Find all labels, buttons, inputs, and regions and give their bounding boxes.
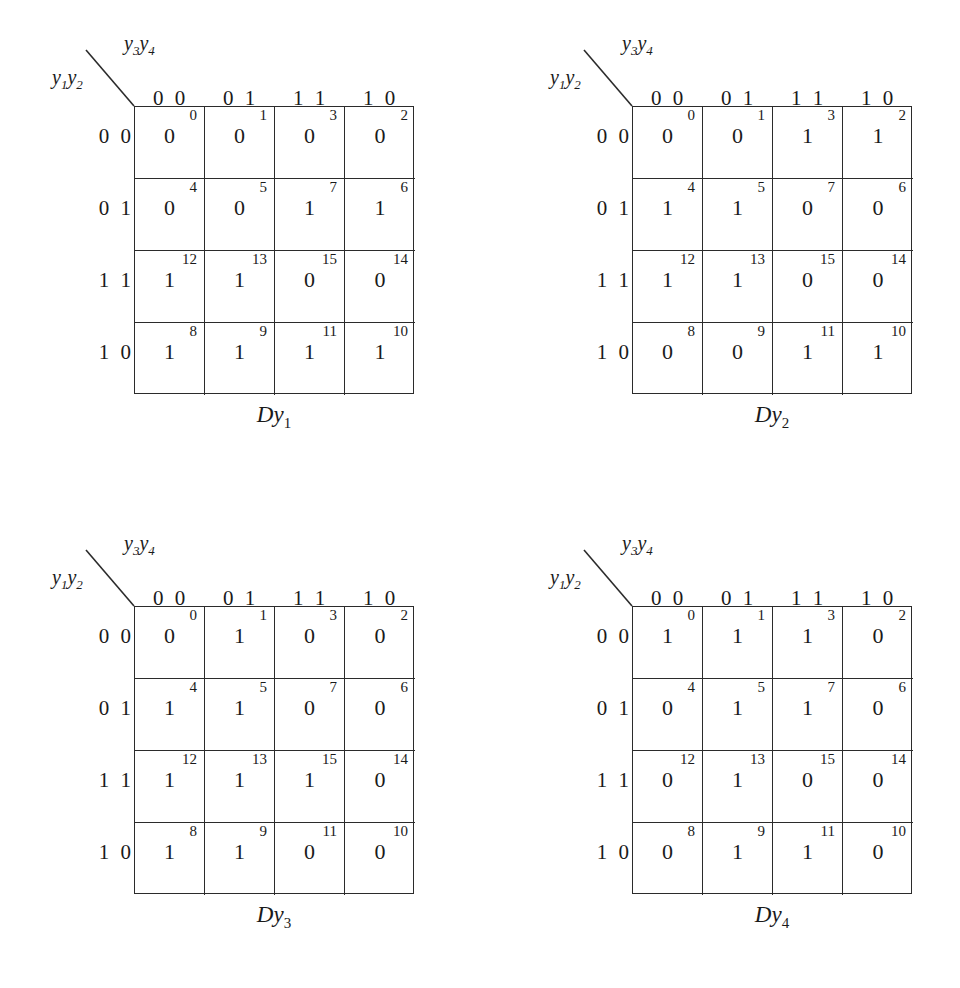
cell-index: 10: [891, 324, 906, 340]
cell-index: 13: [750, 752, 765, 768]
row-header: 0 0: [570, 124, 632, 149]
row-header: 0 0: [72, 124, 134, 149]
kmap-cell: 131: [205, 251, 275, 323]
cell-index: 15: [322, 752, 337, 768]
cell-value: 1: [773, 696, 842, 719]
column-variable-label: y3y4: [622, 32, 653, 59]
kmap-cell: 30: [275, 107, 345, 179]
cell-index: 14: [891, 752, 906, 768]
cell-value: 0: [843, 196, 913, 219]
cell-index: 11: [821, 324, 835, 340]
kmap-caption-subscript: 3: [284, 915, 292, 931]
kmap-grid: 00103020405071611211311501408191111101: [134, 106, 414, 394]
kmap-cell: 51: [703, 679, 773, 751]
cell-value: 1: [703, 196, 772, 219]
kmap-cell: 80: [633, 323, 703, 395]
kmap-caption-subscript: 1: [284, 415, 292, 431]
row-header: 1 1: [72, 768, 134, 793]
row-header: 0 0: [72, 624, 134, 649]
row-header: 1 0: [570, 340, 632, 365]
cell-index: 1: [260, 608, 268, 624]
kmap-grid: 01113120405171601201311501408091111100: [632, 606, 912, 894]
kmap-cell: 91: [703, 823, 773, 895]
cell-index: 10: [891, 824, 906, 840]
cell-value: 1: [275, 768, 344, 791]
cell-index: 0: [688, 108, 696, 124]
cell-value: 1: [843, 124, 913, 147]
cell-index: 1: [758, 608, 766, 624]
cell-value: 0: [773, 196, 842, 219]
cell-index: 6: [899, 680, 907, 696]
row-header: 0 1: [570, 196, 632, 221]
cell-value: 0: [843, 268, 913, 291]
cell-value: 1: [135, 840, 204, 863]
kmap-dy3: y3y4y1y20 00 11 11 00 00 11 11 000113020…: [50, 530, 470, 930]
cell-index: 11: [821, 824, 835, 840]
cell-value: 1: [773, 340, 842, 363]
kmap-caption-subscript: 2: [782, 415, 790, 431]
row-header: 0 1: [72, 696, 134, 721]
kmap-cell: 111: [773, 823, 843, 895]
kmap-cell: 131: [205, 751, 275, 823]
cell-value: 1: [205, 268, 274, 291]
kmap-caption-main: Dy: [755, 402, 782, 427]
cell-value: 0: [633, 696, 702, 719]
cell-value: 0: [275, 696, 344, 719]
cell-value: 0: [345, 124, 415, 147]
kmap-grid: 00113020415170601211311511408191110100: [134, 606, 414, 894]
kmap-cell: 00: [633, 107, 703, 179]
kmap-cell: 11: [205, 607, 275, 679]
kmap-caption: Dy1: [134, 402, 414, 432]
kmap-cell: 110: [275, 823, 345, 895]
cell-index: 11: [323, 324, 337, 340]
cell-index: 12: [680, 752, 695, 768]
row-header: 0 0: [570, 624, 632, 649]
cell-value: 0: [345, 768, 415, 791]
kmap-cell: 80: [633, 823, 703, 895]
cell-value: 1: [773, 124, 842, 147]
kmap-cell: 150: [275, 251, 345, 323]
kmap-cell: 00: [135, 107, 205, 179]
kmap-dy4: y3y4y1y20 00 11 11 00 00 11 11 001113120…: [548, 530, 960, 930]
cell-index: 9: [260, 824, 268, 840]
cell-value: 0: [205, 124, 274, 147]
kmap-cell: 60: [843, 179, 913, 251]
cell-value: 0: [275, 840, 344, 863]
kmap-cell: 90: [703, 323, 773, 395]
kmap-cell: 100: [345, 823, 415, 895]
cell-value: 0: [843, 840, 913, 863]
cell-value: 0: [773, 268, 842, 291]
kmap-cell: 21: [843, 107, 913, 179]
cell-index: 15: [322, 252, 337, 268]
cell-value: 1: [703, 268, 772, 291]
cell-index: 2: [899, 608, 907, 624]
cell-index: 1: [260, 108, 268, 124]
cell-index: 14: [393, 752, 408, 768]
cell-index: 9: [260, 324, 268, 340]
kmap-cell: 131: [703, 251, 773, 323]
cell-value: 1: [135, 340, 204, 363]
kmap-caption: Dy3: [134, 902, 414, 932]
kmap-cell: 41: [135, 679, 205, 751]
cell-index: 14: [891, 252, 906, 268]
cell-value: 1: [703, 624, 772, 647]
kmap-cell: 120: [633, 751, 703, 823]
kmap-cell: 71: [773, 679, 843, 751]
kmap-cell: 121: [135, 751, 205, 823]
kmap-cell: 101: [843, 323, 913, 395]
cell-value: 0: [135, 624, 204, 647]
cell-value: 1: [843, 340, 913, 363]
row-variable-label: y1y2: [550, 566, 581, 593]
cell-index: 15: [820, 752, 835, 768]
kmap-cell: 60: [843, 679, 913, 751]
kmap-cell: 51: [205, 679, 275, 751]
cell-index: 8: [688, 824, 696, 840]
kmap-cell: 121: [135, 251, 205, 323]
cell-index: 7: [330, 680, 338, 696]
kmap-caption-main: Dy: [257, 402, 284, 427]
cell-index: 13: [750, 252, 765, 268]
cell-value: 0: [633, 768, 702, 791]
cell-index: 8: [190, 824, 198, 840]
kmap-cell: 91: [205, 323, 275, 395]
kmap-cell: 140: [843, 751, 913, 823]
